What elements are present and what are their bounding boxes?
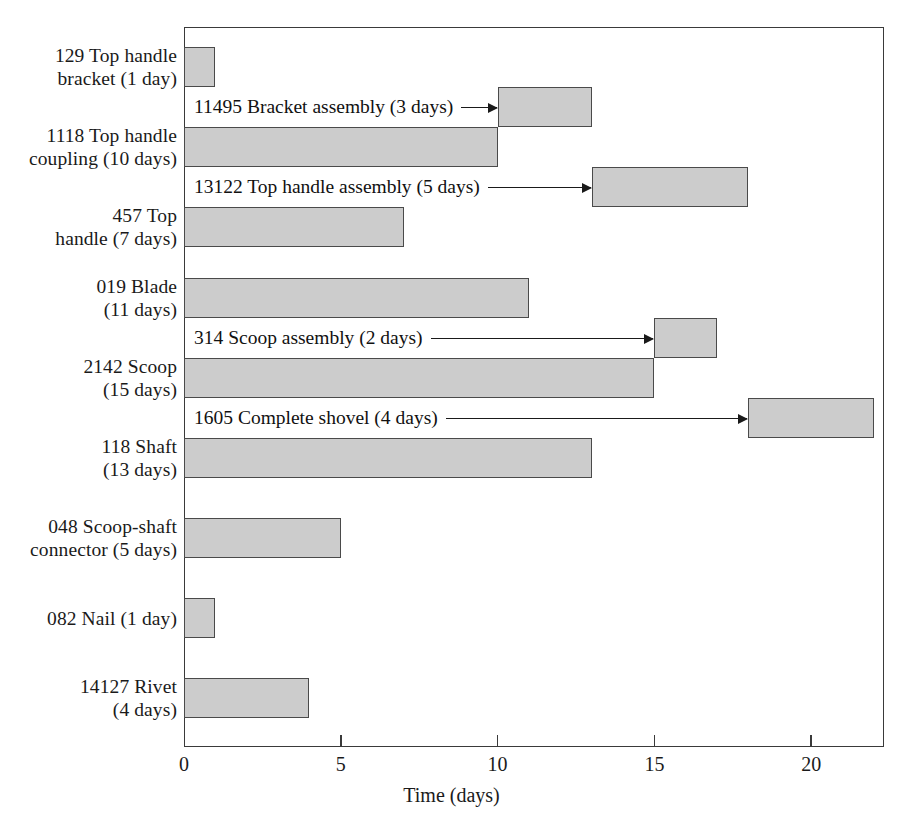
x-axis-tick-label: 20	[801, 753, 821, 775]
gantt-bar	[592, 167, 749, 207]
gantt-chart: 129 Top handle bracket (1 day)11495 Brac…	[0, 0, 903, 825]
x-axis-tick-label: 0	[179, 753, 189, 775]
annotation-arrow-icon	[488, 187, 591, 189]
gantt-bar	[184, 678, 309, 718]
row-label: 14127 Rivet (4 days)	[0, 675, 177, 721]
row-label: 019 Blade (11 days)	[0, 275, 177, 321]
assembly-annotation: 13122 Top handle assembly (5 days)	[194, 176, 480, 198]
x-axis-tick-label: 10	[488, 753, 508, 775]
gantt-bar	[184, 438, 592, 478]
gantt-bar	[654, 318, 717, 358]
row-label: 118 Shaft (13 days)	[0, 435, 177, 481]
x-axis-tick-label: 15	[644, 753, 664, 775]
x-axis-title: Time (days)	[0, 784, 903, 807]
gantt-bar	[184, 278, 529, 318]
x-axis-tick-label: 5	[336, 753, 346, 775]
assembly-annotation: 314 Scoop assembly (2 days)	[194, 327, 423, 349]
x-axis-tick	[654, 735, 656, 747]
x-axis-tick	[497, 735, 499, 747]
assembly-annotation: 1605 Complete shovel (4 days)	[194, 407, 438, 429]
gantt-bar	[748, 398, 873, 438]
annotation-arrow-icon	[446, 418, 748, 420]
annotation-arrow-icon	[431, 338, 654, 340]
gantt-bar	[184, 207, 404, 247]
x-axis-tick	[810, 735, 812, 747]
assembly-annotation: 11495 Bracket assembly (3 days)	[194, 96, 453, 118]
gantt-bar	[498, 87, 592, 127]
row-label: 457 Top handle (7 days)	[0, 204, 177, 250]
row-label: 082 Nail (1 day)	[0, 607, 177, 630]
gantt-bar	[184, 358, 654, 398]
gantt-bar	[184, 598, 215, 638]
gantt-bar	[184, 518, 341, 558]
row-label: 048 Scoop-shaft connector (5 days)	[0, 515, 177, 561]
row-label: 129 Top handle bracket (1 day)	[0, 44, 177, 90]
row-label: 1118 Top handle coupling (10 days)	[0, 124, 177, 170]
annotation-arrow-icon	[461, 107, 496, 109]
x-axis-tick	[340, 735, 342, 747]
gantt-bar	[184, 127, 498, 167]
row-label: 2142 Scoop (15 days)	[0, 355, 177, 401]
gantt-bar	[184, 47, 215, 87]
